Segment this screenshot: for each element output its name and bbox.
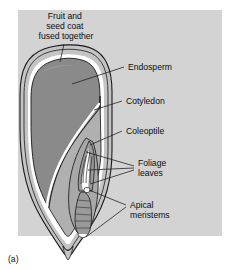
label-cotyledon: Cotyledon xyxy=(126,96,165,106)
label-coleoptile: Coleoptile xyxy=(126,126,164,136)
figure-caption: (a) xyxy=(8,254,19,264)
seed-anatomy-figure: Fruit and seed coat fused together Endos… xyxy=(0,0,233,270)
label-endosperm: Endosperm xyxy=(128,62,172,72)
